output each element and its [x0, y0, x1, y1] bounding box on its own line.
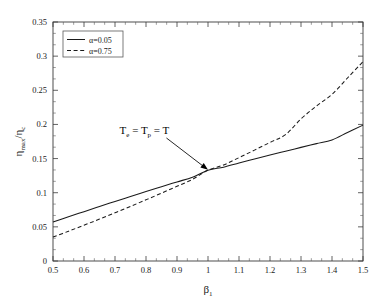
figure-background	[0, 0, 384, 305]
y-tick-label: 0	[43, 256, 47, 266]
y-tick-label: 0.25	[32, 85, 47, 95]
y-tick-label: 0.15	[32, 154, 47, 164]
chart-figure: 0.50.60.70.80.911.11.21.31.41.5 00.050.1…	[0, 0, 384, 305]
x-tick-label: 0.9	[172, 265, 183, 275]
x-tick-label: 0.6	[79, 265, 90, 275]
x-tick-label: 1.3	[296, 265, 307, 275]
y-tick-label: 0.35	[32, 17, 47, 27]
x-tick-label: 1.4	[327, 265, 338, 275]
x-tick-label: 0.5	[48, 265, 59, 275]
legend-label-0: α=0.05	[89, 36, 112, 45]
y-tick-label: 0.2	[36, 119, 47, 129]
x-tick-label: 1.1	[234, 265, 245, 275]
x-tick-label: 1.2	[265, 265, 276, 275]
x-tick-label: 1.5	[358, 265, 369, 275]
y-tick-label: 0.05	[32, 222, 47, 232]
y-tick-label: 0.1	[36, 188, 47, 198]
x-tick-label: 0.7	[110, 265, 121, 275]
y-tick-label: 0.3	[36, 51, 47, 61]
legend: α=0.05α=0.75	[63, 31, 123, 57]
x-tick-label: 1	[206, 265, 210, 275]
x-tick-label: 0.8	[141, 265, 152, 275]
legend-label-1: α=0.75	[89, 47, 112, 56]
